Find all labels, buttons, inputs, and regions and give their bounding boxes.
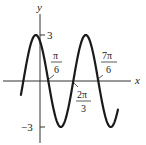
sevenpi6-leader [98, 75, 103, 79]
y-axis-label: y [36, 1, 42, 13]
y-tick-label-neg3: −3 [21, 121, 33, 133]
pi6-denominator: 6 [54, 64, 59, 75]
pi6-numerator: π [53, 50, 58, 61]
graph: y x 3 −3 π 6 2π 3 7π 6 [0, 0, 146, 145]
twopi3-leader [74, 83, 78, 87]
sevenpi6-denominator: 6 [106, 64, 111, 75]
twopi3-numerator: 2π [77, 89, 87, 100]
pi6-leader [49, 75, 54, 79]
x-axis-label: x [134, 74, 140, 86]
y-tick-label-3: 3 [47, 29, 53, 41]
sevenpi6-numerator: 7π [102, 50, 112, 61]
twopi3-denominator: 3 [81, 103, 86, 114]
